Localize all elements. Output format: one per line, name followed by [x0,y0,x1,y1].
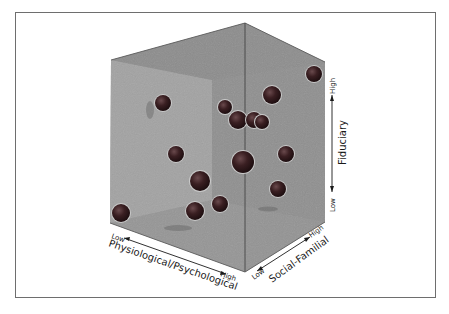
arrow-right-icon [304,237,310,242]
z-axis-label: Fiduciary [337,120,348,165]
y-axis-low: Low [250,267,266,282]
data-sphere [212,196,228,212]
z-axis-high: High [329,78,337,94]
data-sphere [218,100,232,114]
data-sphere [232,151,254,173]
data-sphere [112,204,130,222]
data-sphere [186,202,204,220]
data-sphere [306,66,322,82]
z-axis: High Low Fiduciary [329,78,348,212]
data-sphere [270,181,286,197]
arrow-down-icon [330,186,334,192]
data-sphere [229,111,247,129]
data-sphere [255,115,269,129]
data-sphere [155,95,171,111]
data-sphere [278,146,294,162]
arrow-up-icon [330,95,334,101]
data-sphere [190,171,210,191]
data-sphere [168,146,184,162]
cube-diagram: Low High Physiological/Psychological Low… [0,0,449,314]
data-sphere [263,86,281,104]
z-axis-low: Low [329,198,337,212]
